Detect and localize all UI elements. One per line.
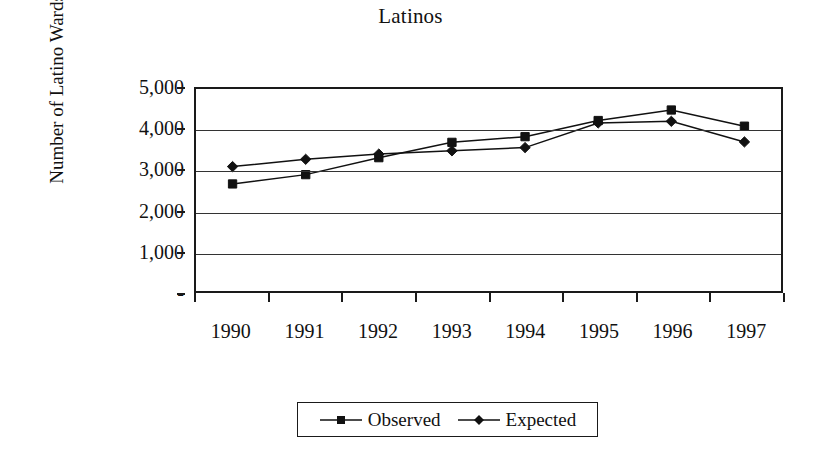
y-tickmark <box>177 87 185 89</box>
x-tickmark <box>562 293 564 302</box>
data-point-marker <box>740 122 748 130</box>
y-tickmark <box>177 169 185 171</box>
series-layer <box>196 89 781 291</box>
data-point-marker <box>521 133 529 141</box>
x-tick-label: 1994 <box>488 318 562 344</box>
x-tickmark <box>341 293 343 302</box>
x-tick-label: 1992 <box>341 318 415 344</box>
y-axis-tick-labels: 5,0004,0003,0002,0001,000- <box>92 87 184 293</box>
x-tickmark <box>415 293 417 302</box>
x-tick-label: 1996 <box>636 318 710 344</box>
x-tickmark <box>268 293 270 302</box>
data-point-marker <box>739 137 749 147</box>
y-tickmark <box>177 252 185 254</box>
y-tick-label: - <box>98 283 184 303</box>
x-tickmark <box>709 293 711 302</box>
x-tick-label: 1990 <box>194 318 268 344</box>
legend-entry-expected[interactable]: Expected <box>457 410 577 429</box>
y-tick-label: 5,000 <box>98 77 184 97</box>
y-axis-title: Number of Latino Wards <box>40 0 74 202</box>
gridline <box>196 254 781 255</box>
x-tickmark <box>489 293 491 302</box>
data-point-marker <box>666 116 676 126</box>
y-tickmark <box>177 293 185 295</box>
data-point-marker <box>227 161 237 171</box>
gridline <box>196 171 781 172</box>
latinos-line-chart: Latinos Number of Latino Wards 5,0004,00… <box>0 0 821 472</box>
x-tick-label: 1991 <box>267 318 341 344</box>
series-expected <box>227 116 749 172</box>
data-point-marker <box>228 180 236 188</box>
gridline <box>196 130 781 131</box>
legend-entry-observed[interactable]: Observed <box>319 410 441 429</box>
chart-legend: ObservedExpected <box>297 402 598 437</box>
y-tickmark <box>177 211 185 213</box>
x-tickmark <box>194 293 196 302</box>
y-tickmark <box>177 128 185 130</box>
legend-label: Expected <box>506 410 577 429</box>
data-point-marker <box>447 146 457 156</box>
x-axis-tick-labels: 19901991199219931994199519961997 <box>194 318 783 348</box>
y-tick-label: 1,000 <box>98 242 184 262</box>
legend-label: Observed <box>368 410 441 429</box>
data-point-marker <box>520 142 530 152</box>
x-axis-tickmarks <box>194 293 783 303</box>
x-tickmark <box>783 293 785 302</box>
y-tick-label: 3,000 <box>98 159 184 179</box>
plot-area <box>194 87 783 293</box>
data-point-marker <box>667 106 675 114</box>
x-tick-label: 1993 <box>415 318 489 344</box>
y-tick-label: 4,000 <box>98 118 184 138</box>
x-tickmark <box>636 293 638 302</box>
diamond-marker-icon <box>457 412 501 428</box>
chart-title: Latinos <box>0 4 821 29</box>
x-tick-label: 1995 <box>562 318 636 344</box>
y-tick-label: 2,000 <box>98 201 184 221</box>
x-tick-label: 1997 <box>709 318 783 344</box>
data-point-marker <box>300 154 310 164</box>
gridline <box>196 213 781 214</box>
square-marker-icon <box>319 412 363 428</box>
